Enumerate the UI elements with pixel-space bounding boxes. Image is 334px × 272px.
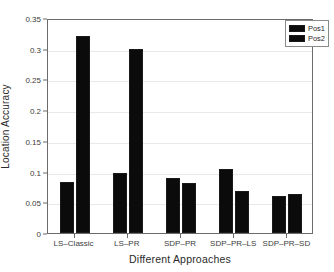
plot-area bbox=[47, 19, 313, 234]
y-tick-label: 0.35 bbox=[25, 15, 41, 24]
y-tick-label: 0.05 bbox=[25, 199, 41, 208]
x-tick-label-sdp-pr-ls: SDP–PR–LS bbox=[210, 239, 256, 248]
bar-sdp-pr-sd-pos1 bbox=[272, 196, 286, 233]
legend-swatch-pos1 bbox=[289, 25, 305, 32]
bar-sdp-pr-ls-pos2 bbox=[235, 191, 249, 233]
bar-ls-pr-pos2 bbox=[129, 49, 143, 233]
legend: Pos1Pos2 bbox=[285, 20, 329, 47]
x-axis: LS–ClassicLS–PRSDP–PRSDP–PR–LSSDP–PR–SD bbox=[47, 234, 313, 254]
x-tick-mark bbox=[180, 234, 181, 238]
bar-sdp-pr-pos2 bbox=[182, 183, 196, 233]
x-tick-mark bbox=[286, 234, 287, 238]
y-tick-label: 0.3 bbox=[30, 45, 41, 54]
y-tick-label: 0.25 bbox=[25, 76, 41, 85]
bar-group bbox=[48, 20, 312, 233]
y-tick-label: 0.15 bbox=[25, 137, 41, 146]
chart-figure: Location Accuracy 00.050.10.150.20.250.3… bbox=[0, 0, 334, 272]
x-tick-mark bbox=[233, 234, 234, 238]
y-axis: 00.050.10.150.20.250.30.35 bbox=[0, 19, 47, 234]
bar-ls-classic-pos2 bbox=[76, 36, 90, 233]
bar-ls-classic-pos1 bbox=[60, 182, 74, 233]
x-tick-mark bbox=[74, 234, 75, 238]
x-tick-label-sdp-pr: SDP–PR bbox=[164, 239, 196, 248]
legend-label-pos1: Pos1 bbox=[308, 25, 325, 33]
x-axis-title: Different Approaches bbox=[47, 253, 313, 265]
y-tick-label: 0 bbox=[37, 230, 41, 239]
x-tick-label-sdp-pr-sd: SDP–PR–SD bbox=[263, 239, 311, 248]
bar-sdp-pr-sd-pos2 bbox=[288, 194, 302, 233]
bar-ls-pr-pos1 bbox=[113, 173, 127, 233]
x-tick-mark bbox=[127, 234, 128, 238]
legend-item-pos2: Pos2 bbox=[289, 34, 325, 43]
bar-sdp-pr-ls-pos1 bbox=[219, 169, 233, 233]
x-tick-label-ls-pr: LS–PR bbox=[114, 239, 139, 248]
y-tick-label: 0.1 bbox=[30, 168, 41, 177]
bar-sdp-pr-pos1 bbox=[166, 178, 180, 233]
legend-item-pos1: Pos1 bbox=[289, 24, 325, 33]
y-tick-label: 0.2 bbox=[30, 107, 41, 116]
x-tick-label-ls-classic: LS–Classic bbox=[54, 239, 94, 248]
legend-swatch-pos2 bbox=[289, 35, 305, 42]
legend-label-pos2: Pos2 bbox=[308, 35, 325, 43]
